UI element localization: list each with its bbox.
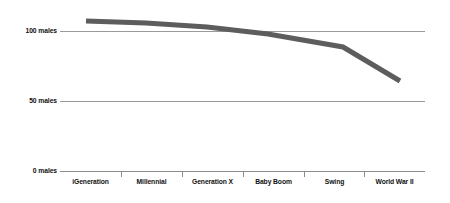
x-axis-label-generation-x: Generation X [185, 177, 240, 186]
plot-area: 100 males 50 males 0 males iGeneration M… [0, 0, 450, 203]
x-axis-label-world-war-ii: World War II [367, 177, 422, 186]
line-chart: 100 males 50 males 0 males iGeneration M… [0, 0, 450, 203]
x-axis-label-igeneration: iGeneration [63, 177, 118, 186]
series-line-layer [0, 0, 450, 203]
x-axis-label-swing: Swing [307, 177, 362, 186]
x-axis-label-baby-boom: Baby Boom [246, 177, 301, 186]
series-line-males-per-100-females [86, 21, 400, 81]
x-axis-label-millennial: Millennial [124, 177, 179, 186]
